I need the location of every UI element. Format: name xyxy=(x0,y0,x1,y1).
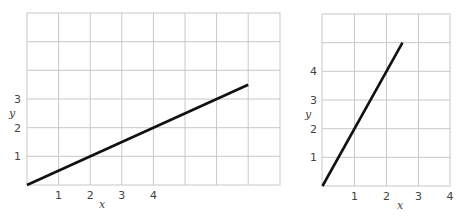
right-grid xyxy=(322,14,450,186)
left-grid xyxy=(27,13,280,185)
right-x-tick-4: 4 xyxy=(447,190,454,203)
left-x-tick-2: 2 xyxy=(87,189,94,202)
right-y-tick-3: 3 xyxy=(310,94,317,107)
left-y-tick-2: 2 xyxy=(14,122,21,135)
right-y-tick-2: 2 xyxy=(310,123,317,136)
left-x-axis-label: x xyxy=(99,198,106,211)
right-chart: 1 2 3 4 x 1 2 3 4 y xyxy=(304,14,454,212)
left-y-tick-1: 1 xyxy=(14,150,21,163)
right-x-tick-2: 2 xyxy=(383,190,390,203)
left-chart: 1 2 3 4 x 1 2 3 y xyxy=(8,13,280,211)
left-y-axis-label: y xyxy=(8,107,16,120)
right-x-tick-1: 1 xyxy=(351,190,358,203)
left-data-line xyxy=(27,85,248,185)
left-x-tick-4: 4 xyxy=(150,189,157,202)
right-data-line xyxy=(323,43,403,186)
left-x-tick-1: 1 xyxy=(55,189,62,202)
right-y-tick-4: 4 xyxy=(310,65,317,78)
right-x-axis-label: x xyxy=(397,199,404,212)
left-x-tick-3: 3 xyxy=(118,189,125,202)
right-x-tick-3: 3 xyxy=(415,190,422,203)
left-y-tick-3: 3 xyxy=(14,93,21,106)
figure: 1 2 3 4 x 1 2 3 y 1 2 3 4 x 1 2 3 4 y xyxy=(0,0,459,216)
right-y-axis-label: y xyxy=(304,108,312,121)
right-y-tick-1: 1 xyxy=(310,151,317,164)
